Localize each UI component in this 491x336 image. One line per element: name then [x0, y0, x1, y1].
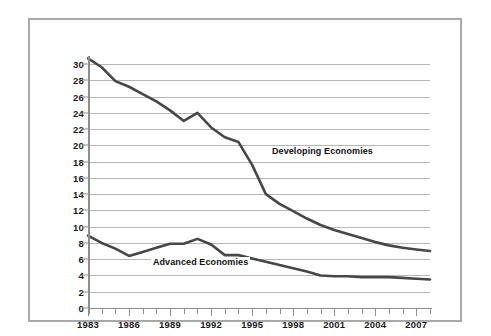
y-tick-label-10: 10: [60, 221, 84, 232]
series-lines-group: [88, 64, 430, 308]
x-tick-mark-1985: [115, 308, 116, 314]
y-tick-mark-26: [82, 96, 88, 97]
x-tick-mark-2004: [375, 308, 376, 316]
y-tick-mark-16: [82, 177, 88, 178]
x-tick-mark-2006: [403, 308, 404, 314]
x-tick-mark-1990: [184, 308, 185, 314]
series-line-developing-economies: [88, 58, 430, 251]
y-tick-mark-30: [82, 64, 88, 65]
x-tick-mark-1991: [197, 308, 198, 314]
y-tick-mark-28: [82, 80, 88, 81]
y-tick-label-8: 8: [60, 237, 84, 248]
x-tick-mark-1986: [129, 308, 130, 316]
y-tick-label-4: 4: [60, 270, 84, 281]
y-tick-mark-22: [82, 129, 88, 130]
chart-frame: 024681012141618202224262830 198319861989…: [28, 18, 462, 322]
x-tick-label-1989: 1989: [159, 319, 181, 330]
y-tick-label-0: 0: [60, 303, 84, 314]
x-tick-mark-2008: [430, 308, 431, 314]
x-tick-mark-1988: [156, 308, 157, 314]
y-tick-mark-2: [82, 291, 88, 292]
y-tick-label-24: 24: [60, 107, 84, 118]
x-tick-mark-1987: [143, 308, 144, 314]
x-tick-mark-2003: [362, 308, 363, 314]
x-tick-mark-2007: [416, 308, 417, 316]
series-label-advanced-economies: Advanced Economies: [151, 257, 250, 267]
x-tick-mark-1995: [252, 308, 253, 316]
y-axis-spine: [88, 56, 90, 314]
x-tick-mark-1997: [280, 308, 281, 314]
x-tick-label-1986: 1986: [118, 319, 140, 330]
y-tick-mark-6: [82, 259, 88, 260]
x-tick-mark-1994: [238, 308, 239, 314]
y-tick-mark-10: [82, 226, 88, 227]
y-tick-mark-24: [82, 112, 88, 113]
plot-area: [88, 64, 430, 308]
y-tick-label-30: 30: [60, 59, 84, 70]
x-axis-spine: [88, 308, 432, 309]
y-tick-label-26: 26: [60, 91, 84, 102]
x-tick-label-2004: 2004: [364, 319, 386, 330]
y-tick-label-18: 18: [60, 156, 84, 167]
y-tick-mark-4: [82, 275, 88, 276]
y-tick-label-6: 6: [60, 254, 84, 265]
y-tick-mark-12: [82, 210, 88, 211]
y-tick-mark-20: [82, 145, 88, 146]
x-tick-mark-2001: [334, 308, 335, 316]
chart-page: 024681012141618202224262830 198319861989…: [0, 0, 491, 336]
x-tick-label-1983: 1983: [77, 319, 99, 330]
y-tick-label-2: 2: [60, 286, 84, 297]
x-tick-mark-2002: [348, 308, 349, 314]
x-tick-mark-2000: [321, 308, 322, 314]
x-tick-label-2001: 2001: [323, 319, 345, 330]
y-tick-mark-18: [82, 161, 88, 162]
x-tick-mark-1983: [88, 308, 89, 316]
x-tick-mark-1993: [225, 308, 226, 314]
x-tick-mark-1996: [266, 308, 267, 314]
x-tick-label-1995: 1995: [241, 319, 263, 330]
y-axis-tick-labels: 024681012141618202224262830: [56, 20, 84, 336]
x-tick-mark-1999: [307, 308, 308, 314]
x-tick-label-2007: 2007: [405, 319, 427, 330]
y-tick-label-28: 28: [60, 75, 84, 86]
y-tick-label-22: 22: [60, 124, 84, 135]
x-tick-mark-1984: [102, 308, 103, 314]
x-tick-label-1992: 1992: [200, 319, 222, 330]
y-tick-mark-8: [82, 242, 88, 243]
x-tick-mark-2005: [389, 308, 390, 314]
x-tick-label-1998: 1998: [282, 319, 304, 330]
y-tick-label-12: 12: [60, 205, 84, 216]
x-tick-mark-1992: [211, 308, 212, 316]
y-tick-mark-14: [82, 194, 88, 195]
x-tick-mark-1989: [170, 308, 171, 316]
y-tick-label-14: 14: [60, 189, 84, 200]
x-tick-mark-1998: [293, 308, 294, 316]
y-tick-label-20: 20: [60, 140, 84, 151]
y-tick-label-16: 16: [60, 172, 84, 183]
series-label-developing-economies: Developing Economies: [270, 146, 375, 156]
